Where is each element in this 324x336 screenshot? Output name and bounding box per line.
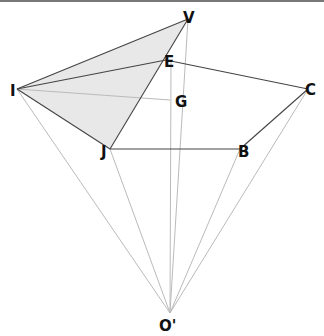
label-c: C bbox=[305, 81, 316, 99]
label-g: G bbox=[175, 93, 187, 111]
label-e: E bbox=[164, 53, 174, 71]
projection-lines bbox=[17, 19, 308, 313]
line-o-j bbox=[110, 149, 170, 313]
line-o-e bbox=[170, 62, 171, 313]
line-o-b bbox=[170, 149, 240, 313]
label-o-prime: O' bbox=[159, 317, 176, 335]
line-o-c bbox=[170, 89, 308, 313]
label-b: B bbox=[238, 143, 249, 161]
edge-c-b bbox=[240, 89, 308, 149]
edge-e-c bbox=[166, 60, 308, 89]
label-i: I bbox=[10, 82, 16, 100]
geometry-diagram: V E I G C J B O' bbox=[0, 0, 324, 336]
label-j: J bbox=[100, 143, 107, 161]
label-v: V bbox=[183, 9, 195, 27]
